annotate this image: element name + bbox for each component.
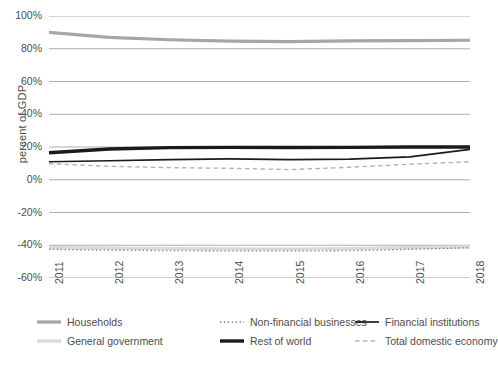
plot-area	[49, 16, 470, 278]
legend-swatch-solid-thin-black	[354, 316, 380, 328]
chart-legend: HouseholdsNon-financial businessesFinanc…	[36, 316, 491, 360]
y-tick-label: -60%	[0, 271, 42, 283]
legend-item[interactable]: General government	[36, 335, 163, 347]
legend-swatch-solid-thick-gray	[36, 316, 62, 328]
series-line	[49, 247, 470, 249]
series-line	[49, 147, 470, 153]
y-tick-label: 20%	[0, 140, 42, 152]
legend-label: Non-financial businesses	[250, 316, 367, 328]
y-tick-label: 80%	[0, 42, 42, 54]
legend-item[interactable]: Households	[36, 316, 122, 328]
series-line	[49, 32, 470, 41]
x-tick-label: 2018	[474, 261, 486, 284]
legend-swatch-solid-thick-black	[219, 335, 245, 347]
y-tick-label: 40%	[0, 107, 42, 119]
legend-label: Total domestic economy	[385, 335, 498, 347]
legend-item[interactable]: Financial institutions	[354, 316, 480, 328]
legend-swatch-dotted-gray	[219, 316, 245, 328]
y-tick-label: 0%	[0, 173, 42, 185]
legend-swatch-dashed-gray	[354, 335, 380, 347]
legend-label: General government	[67, 335, 163, 347]
legend-label: Households	[67, 316, 122, 328]
legend-label: Rest of world	[250, 335, 311, 347]
y-tick-label: -20%	[0, 206, 42, 218]
series-line	[49, 149, 470, 161]
y-tick-label: 100%	[0, 9, 42, 21]
y-tick-label: -40%	[0, 238, 42, 250]
legend-item[interactable]: Rest of world	[219, 335, 311, 347]
legend-label: Financial institutions	[385, 316, 480, 328]
line-chart-svg	[49, 16, 470, 278]
legend-swatch-solid-thick-lightgray	[36, 335, 62, 347]
series-line	[49, 162, 470, 170]
legend-item[interactable]: Total domestic economy	[354, 335, 498, 347]
y-tick-label: 60%	[0, 75, 42, 87]
legend-item[interactable]: Non-financial businesses	[219, 316, 367, 328]
